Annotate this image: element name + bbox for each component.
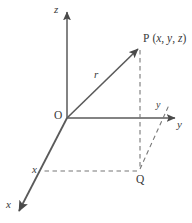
origin-label: O (54, 110, 62, 122)
dashed-q-to-y-axis (140, 105, 169, 169)
vector-r-label: r (94, 69, 98, 80)
y-axis-label: y (177, 119, 182, 130)
point-p-paren-close: ) (182, 32, 186, 44)
y-projection-label: y (156, 100, 160, 110)
z-axis-label: z (54, 4, 58, 15)
position-vector-r (67, 49, 138, 118)
x-axis-label: x (6, 199, 11, 210)
point-q-label: Q (136, 174, 144, 186)
point-p-name: P (143, 32, 149, 44)
x-axis-line (19, 118, 67, 211)
coordinate-system-figure: z O y y x x r P(x, y, z) Q (0, 0, 192, 223)
point-p-label: P(x, y, z) (143, 33, 186, 45)
x-projection-label: x (32, 164, 37, 175)
